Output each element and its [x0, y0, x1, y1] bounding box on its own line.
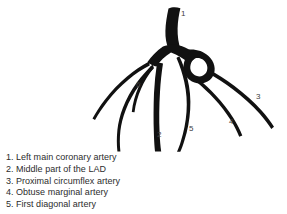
vessel-marker-3: 3 — [256, 92, 261, 101]
caption-item: 4. Obtuse marginal artery — [0, 187, 287, 199]
caption-label: First diagonal artery — [16, 199, 287, 211]
caption-number: 2. — [0, 164, 16, 176]
caption-item: 5. First diagonal artery — [0, 199, 287, 211]
caption-number: 5. — [0, 199, 16, 211]
caption-label: Middle part of the LAD — [16, 164, 287, 176]
vessel-marker-5: 5 — [189, 124, 194, 133]
vessel-marker-6: 6 — [136, 80, 141, 89]
vessel-marker-2: 2 — [157, 130, 162, 139]
caption-item: 1. Left main coronary artery — [0, 152, 287, 164]
figure-page: 1 2 3 4 5 6 1. Left main coronary artery… — [0, 0, 287, 214]
vessel-marker-1: 1 — [181, 9, 186, 18]
vessel-left-main-trunk — [165, 7, 180, 49]
vessel-left-branch-6 — [93, 62, 150, 121]
vessel-marker-4: 4 — [229, 117, 234, 126]
caption-number: 1. — [0, 152, 16, 164]
caption-label: Obtuse marginal artery — [16, 187, 287, 199]
angiogram-figure: 1 2 3 4 5 6 — [0, 0, 287, 152]
caption-item: 2. Middle part of the LAD — [0, 164, 287, 176]
angiogram-drawing: 1 2 3 4 5 6 — [0, 0, 287, 152]
caption-label: Proximal circumflex artery — [16, 176, 287, 188]
vessel-left-branch-secondary — [117, 65, 154, 152]
caption-label: Left main coronary artery — [16, 152, 287, 164]
figure-caption-list: 1. Left main coronary artery 2. Middle p… — [0, 152, 287, 211]
caption-number: 3. — [0, 176, 16, 188]
caption-number: 4. — [0, 187, 16, 199]
caption-item: 3. Proximal circumflex artery — [0, 176, 287, 188]
